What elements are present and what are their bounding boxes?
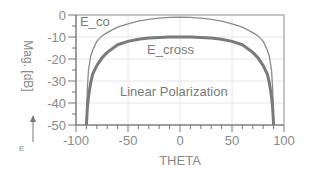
y-tick-label: -20 <box>47 52 66 67</box>
e-field-label: E <box>19 144 24 153</box>
chart: 0-10-20-30-40-50-100-50050100 E_co E_cro… <box>0 0 315 172</box>
y-tick-label: -50 <box>47 118 66 133</box>
x-tick-label: -50 <box>119 133 138 148</box>
y-tick-label: 0 <box>59 8 66 23</box>
annotation-linear-polarization: Linear Polarization <box>120 84 228 99</box>
y-tick-label: -40 <box>47 96 66 111</box>
y-tick-label: -10 <box>47 30 66 45</box>
grid <box>76 15 284 125</box>
x-tick-label: 50 <box>225 133 239 148</box>
e-field-arrow-icon <box>30 115 36 142</box>
axes: 0-10-20-30-40-50-100-50050100 <box>47 8 295 148</box>
x-tick-label: 100 <box>273 133 295 148</box>
y-tick-label: -30 <box>47 74 66 89</box>
annotation-e-cross: E_cross <box>147 42 194 57</box>
x-axis-title: THETA <box>159 153 201 168</box>
x-tick-label: -100 <box>63 133 89 148</box>
annotation-e-co: E_co <box>80 14 110 29</box>
y-axis-title: Mag. [dB] <box>21 40 35 91</box>
x-tick-label: 0 <box>176 133 183 148</box>
